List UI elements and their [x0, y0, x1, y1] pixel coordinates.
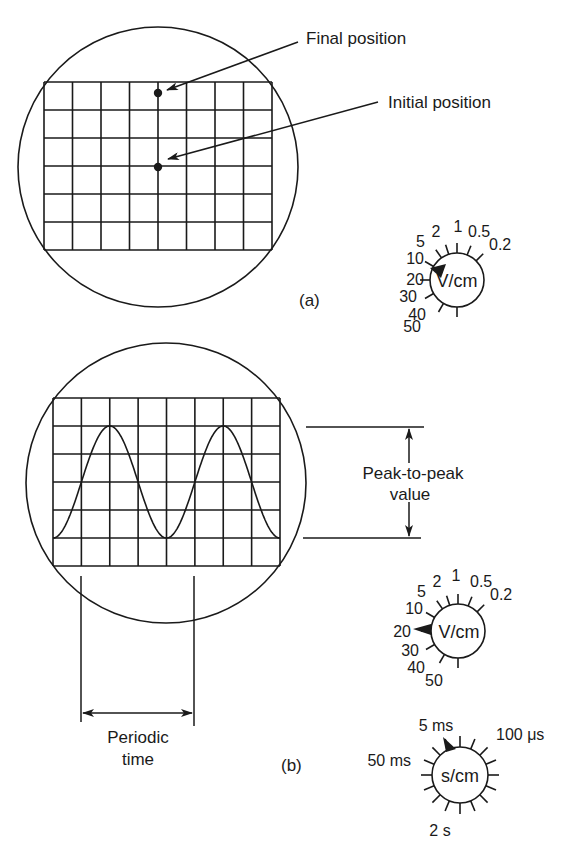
- figure-a: Final position Initial position (a) V/cm…: [18, 27, 511, 335]
- dial-tick: [432, 795, 440, 803]
- time-label-50ms: 50 ms: [367, 752, 411, 769]
- tick-label-40: 40: [408, 306, 426, 323]
- tick-label-0.5: 0.5: [468, 223, 490, 240]
- peak-to-peak-label-line2: value: [390, 485, 431, 504]
- dial-pointer-icon: [413, 624, 431, 635]
- tick-label-30: 30: [401, 642, 419, 659]
- oscilloscope-diagram: Final position Initial position (a) V/cm…: [0, 0, 582, 855]
- periodic-time-label-line2: time: [122, 750, 154, 769]
- dial-tick: [440, 654, 445, 663]
- dial-tick: [480, 747, 488, 755]
- tick-label-50: 50: [425, 672, 443, 689]
- final-position-label: Final position: [306, 29, 406, 48]
- dial-unit-label: V/cm: [436, 271, 477, 291]
- initial-position-label: Initial position: [388, 93, 491, 112]
- time-label-100us: 100 μs: [496, 726, 544, 743]
- tick-label-20: 20: [393, 623, 411, 640]
- dial-pointer-icon: [443, 737, 456, 752]
- dial-unit-label: V/cm: [438, 622, 479, 642]
- dial-tick: [476, 254, 483, 261]
- tick-label-1: 1: [454, 218, 463, 235]
- volts-per-cm-dial-b[interactable]: V/cm 50 40 30 20 10 5 2 1 0.5 0.2: [393, 567, 512, 689]
- volts-per-cm-dial-a[interactable]: V/cm 50 40 30 20 10 5 2 1 0.5 0.2: [399, 218, 511, 335]
- dial-tick: [486, 786, 496, 790]
- tick-label-2: 2: [433, 573, 442, 590]
- dial-tick: [424, 760, 434, 764]
- tick-label-5: 5: [416, 233, 425, 250]
- peak-to-peak-label-line1: Peak-to-peak: [362, 464, 464, 483]
- tick-label-0.2: 0.2: [489, 236, 511, 253]
- tick-label-10: 10: [405, 600, 423, 617]
- figure-a-label: (a): [299, 291, 320, 310]
- dial-tick: [477, 605, 484, 612]
- dial-tick: [445, 801, 449, 811]
- initial-position-dot: [154, 163, 162, 171]
- dial-tick: [437, 601, 443, 609]
- tick-label-10: 10: [406, 250, 424, 267]
- tick-label-5: 5: [417, 583, 426, 600]
- dial-tick: [467, 246, 471, 255]
- tick-label-30: 30: [399, 288, 417, 305]
- graticule-grid-b: [53, 398, 280, 566]
- periodic-time-label-line1: Periodic: [107, 728, 169, 747]
- dial-tick: [436, 250, 442, 258]
- dial-tick: [446, 245, 449, 255]
- dial-unit-label: s/cm: [441, 766, 479, 786]
- final-position-dot: [154, 89, 162, 97]
- dial-tick: [425, 294, 434, 299]
- dial-tick: [439, 303, 444, 312]
- seconds-per-cm-dial[interactable]: s/cm 5 ms 50 ms 100 μs 2 s: [367, 717, 544, 839]
- tick-label-1: 1: [452, 567, 461, 584]
- figure-b-label: (b): [281, 756, 302, 775]
- dial-tick: [468, 597, 472, 606]
- dial-tick: [471, 739, 475, 749]
- tick-label-2: 2: [432, 223, 441, 240]
- tick-label-0.2: 0.2: [490, 586, 512, 603]
- time-label-2s: 2 s: [429, 822, 450, 839]
- dial-tick: [426, 645, 435, 650]
- dial-tick: [471, 801, 475, 811]
- dial-tick: [426, 613, 435, 618]
- dial-tick: [432, 747, 440, 755]
- time-label-5ms: 5 ms: [419, 717, 454, 734]
- figure-b: Peak-to-peak value Periodic time (b) V/c…: [26, 343, 544, 839]
- dial-tick: [486, 760, 496, 764]
- dial-tick: [447, 596, 450, 606]
- dial-tick: [480, 795, 488, 803]
- dial-tick: [425, 262, 434, 267]
- dial-tick: [424, 786, 434, 790]
- tick-label-40: 40: [407, 659, 425, 676]
- tick-label-0.5: 0.5: [470, 573, 492, 590]
- tick-label-20: 20: [406, 271, 424, 288]
